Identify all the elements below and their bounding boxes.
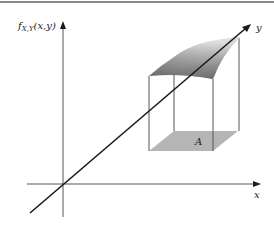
- y-axis: [30, 28, 246, 213]
- x-axis-label: x: [254, 189, 260, 200]
- vertical-axis-label: fX,Y(x,y): [17, 20, 56, 33]
- y-axis-label: y: [255, 22, 262, 33]
- region-label: A: [194, 136, 202, 147]
- joint-density-diagram: fX,Y(x,y) x y A: [0, 0, 274, 225]
- vertical-axis-arrow-icon: [60, 21, 66, 29]
- region-a: [149, 131, 238, 151]
- x-axis-arrow-icon: [253, 181, 261, 187]
